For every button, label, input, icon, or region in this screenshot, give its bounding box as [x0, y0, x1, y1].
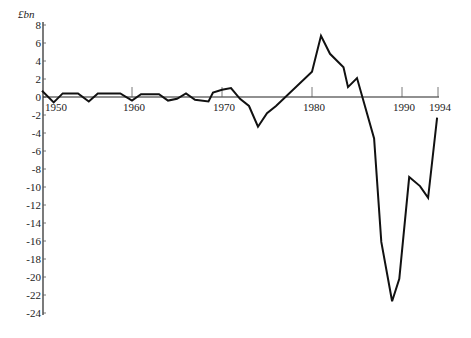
- x-tick-label: 1990: [393, 101, 416, 113]
- y-tick-label: -6: [32, 145, 42, 157]
- y-tick-label: -8: [32, 163, 42, 175]
- y-tick-label: -18: [26, 253, 41, 265]
- line-chart: £bn 86420-2-4-6-8-10-12-14-16-18-20-22-2…: [0, 0, 471, 338]
- y-tick-label: 8: [36, 19, 42, 31]
- y-tick-label: -10: [26, 181, 41, 193]
- data-series-line: [42, 36, 437, 302]
- x-axis: 195019601970198019901994: [43, 87, 452, 113]
- y-tick-label: -12: [26, 199, 41, 211]
- y-axis-unit-label: £bn: [18, 8, 35, 20]
- x-tick-label: 1970: [213, 101, 236, 113]
- y-tick-label: 4: [36, 55, 42, 67]
- y-tick-label: -24: [26, 307, 41, 319]
- y-tick-label: 0: [36, 91, 42, 103]
- y-tick-label: -16: [26, 235, 41, 247]
- x-tick-label: 1980: [303, 101, 326, 113]
- y-tick-label: -20: [26, 271, 41, 283]
- y-tick-label: -4: [32, 127, 42, 139]
- y-tick-label: -14: [26, 217, 41, 229]
- y-tick-label: -2: [32, 109, 41, 121]
- y-axis: 86420-2-4-6-8-10-12-14-16-18-20-22-24: [26, 19, 46, 319]
- x-tick-label: 1960: [123, 101, 146, 113]
- y-tick-label: 2: [36, 73, 42, 85]
- y-tick-label: 6: [36, 37, 42, 49]
- x-tick-label: 1950: [45, 101, 68, 113]
- x-tick-label: 1994: [429, 101, 452, 113]
- y-tick-label: -22: [26, 289, 41, 301]
